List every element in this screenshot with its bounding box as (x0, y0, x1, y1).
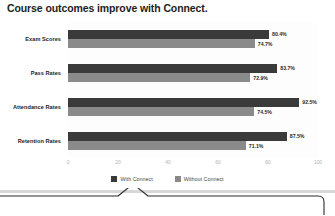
bar-value-label: 83.7% (280, 65, 295, 71)
bar-value-label: 74.5% (257, 109, 272, 115)
legend-item[interactable]: With Connect (111, 176, 152, 182)
category-label: Exam Scores (25, 36, 61, 42)
x-axis-tick-label: 0 (67, 160, 70, 165)
chart-container: Course outcomes improve with Connect. Ex… (0, 0, 335, 216)
bar-value-label: 80.4% (272, 31, 287, 37)
bar-group: Attendance Rates92.5%74.5% (68, 90, 318, 124)
bar: 83.7% (68, 64, 277, 73)
bar: 80.4% (68, 30, 269, 39)
plot-area: Exam Scores80.4%74.7%Pass Rates83.7%72.9… (68, 22, 318, 158)
x-axis-tick-label: 60 (215, 160, 220, 165)
bar-value-label: 87.5% (290, 133, 305, 139)
callout-bubble (0, 188, 335, 216)
bar: 92.5% (68, 98, 299, 107)
bar-group: Pass Rates83.7%72.9% (68, 56, 318, 90)
x-axis-tick-label: 20 (115, 160, 120, 165)
x-axis-tick-label: 80 (265, 160, 270, 165)
chart-title: Course outcomes improve with Connect. (7, 2, 208, 14)
legend-swatch-icon (111, 176, 117, 182)
legend-label: With Connect (120, 176, 152, 182)
category-label: Retention Rates (18, 138, 61, 144)
bar-group: Exam Scores80.4%74.7% (68, 22, 318, 56)
legend-swatch-icon (175, 176, 181, 182)
bar: 71.1% (68, 141, 246, 150)
category-label: Attendance Rates (13, 104, 61, 110)
bar: 72.9% (68, 73, 250, 82)
x-axis-tick-label: 100 (314, 160, 322, 165)
legend-label: Without Connect (184, 176, 224, 182)
chart-legend: With ConnectWithout Connect (0, 176, 335, 182)
bar-value-label: 72.9% (253, 75, 268, 81)
bar-value-label: 74.7% (258, 41, 273, 47)
bar: 74.5% (68, 107, 254, 116)
category-label: Pass Rates (31, 70, 61, 76)
bar-group: Retention Rates87.5%71.1% (68, 124, 318, 158)
bar-value-label: 92.5% (302, 99, 317, 105)
x-axis-tick-label: 40 (165, 160, 170, 165)
bar: 87.5% (68, 132, 287, 141)
x-axis: 020406080100 (68, 160, 318, 172)
legend-item[interactable]: Without Connect (175, 176, 224, 182)
bar-value-label: 71.1% (249, 143, 264, 149)
bar: 74.7% (68, 39, 255, 48)
